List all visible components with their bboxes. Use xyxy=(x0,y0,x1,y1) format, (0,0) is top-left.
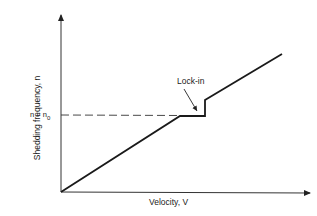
n0-label-main: n = n xyxy=(30,110,47,119)
n0-label: n = n0 xyxy=(30,110,50,121)
n0-label-subscript: 0 xyxy=(47,115,50,121)
diagram-canvas xyxy=(0,0,317,216)
reference-line-n0 xyxy=(61,115,180,116)
x-axis xyxy=(61,192,310,193)
frequency-curve xyxy=(61,54,282,192)
lockin-annotation: Lock-in xyxy=(177,76,204,86)
lockin-pointer-arrow xyxy=(184,89,197,111)
x-axis-label: Velocity, V xyxy=(149,197,188,207)
